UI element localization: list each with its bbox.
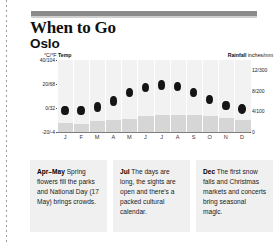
temp-axis-tick: 40/104 (40, 57, 55, 63)
month-label: A (176, 134, 180, 140)
tips-row: Apr–May Spring flowers fill the parks an… (30, 160, 273, 232)
month-label: J (64, 134, 67, 140)
header-rule (31, 11, 257, 16)
month-label: N (224, 134, 228, 140)
temp-axis-name: Temp (58, 52, 71, 58)
rainfall-bar (74, 124, 90, 132)
tip-text: The days are long, the sights are open a… (120, 168, 176, 215)
rainfall-bar (171, 115, 187, 132)
month-label: J (160, 134, 163, 140)
rainfall-axis-tick: 4/100 (252, 108, 265, 114)
rainfall-bar (187, 115, 203, 132)
tip-text: The first snow falls and Christmas marke… (203, 168, 266, 215)
temp-data-point (238, 104, 245, 114)
page-sheet: When to Go Oslo °C/°F Temp Rainfall inch… (14, 0, 275, 243)
tip-month: Apr–May (37, 168, 65, 175)
temp-axis-tick: 20/68 (42, 81, 55, 87)
page-edge-guide (6, 0, 7, 243)
chart-column (234, 60, 252, 132)
month-label: A (111, 134, 115, 140)
chart-plot-area: 40/10420/680/32-20/-412/3008/2004/1000 (57, 60, 250, 132)
month-label: M (127, 134, 132, 140)
tip-dec: Dec The first snow falls and Christmas m… (196, 160, 273, 232)
rainfall-axis-tick: 0 (252, 129, 255, 135)
temp-data-point (77, 106, 84, 116)
temp-data-point (110, 96, 117, 106)
rainfall-axis-caption: Rainfall inches/mm (228, 52, 273, 58)
rainfall-bar (122, 119, 138, 132)
rainfall-bar (155, 115, 171, 132)
rainfall-bar (203, 116, 219, 132)
tip-month: Dec (203, 168, 215, 175)
rainfall-bar (219, 118, 235, 132)
page-subtitle: Oslo (30, 36, 60, 51)
rainfall-bar (138, 116, 154, 132)
rainfall-bar (106, 120, 122, 132)
rainfall-bar (235, 120, 251, 132)
temp-data-point (94, 102, 101, 112)
rainfall-bar (58, 123, 74, 132)
rainfall-axis-tick: 8/200 (252, 88, 265, 94)
rainfall-axis-name: Rainfall (228, 52, 247, 58)
month-label: J (144, 134, 147, 140)
tip-jul: Jul The days are long, the sights are op… (113, 160, 190, 232)
temp-axis-tick: 0/32 (45, 105, 55, 111)
rainfall-axis-tick: 12/300 (252, 67, 267, 73)
temp-data-point (126, 88, 133, 98)
temp-data-point (222, 101, 229, 111)
month-label: O (208, 134, 212, 140)
month-label: S (192, 134, 196, 140)
tip-apr-may: Apr–May Spring flowers fill the parks an… (30, 160, 107, 232)
page-title: When to Go (30, 18, 116, 38)
rainfall-axis-unit: inches/mm (248, 52, 273, 58)
month-label: D (240, 134, 244, 140)
month-label: F (79, 134, 82, 140)
temp-axis-tick: -20/-4 (42, 129, 55, 135)
tip-month: Jul (120, 168, 130, 175)
temp-data-point (61, 106, 68, 116)
chart-baseline (57, 132, 250, 133)
rainfall-bar (90, 121, 106, 132)
climate-chart: °C/°F Temp Rainfall inches/mm 40/10420/6… (30, 52, 273, 146)
month-label: M (95, 134, 100, 140)
